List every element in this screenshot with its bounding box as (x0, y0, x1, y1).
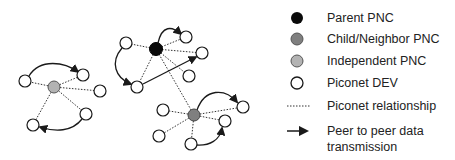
legend: Parent PNC Child/Neighbor PNC Independen… (287, 11, 440, 154)
legend-label-p2p-line2: transmission (327, 140, 397, 154)
legend-label-dev: Piconet DEV (327, 76, 399, 90)
parent-pnc-node (150, 43, 163, 56)
legend-label-child: Child/Neighbor PNC (327, 32, 440, 46)
child-pnc-symbol (291, 33, 303, 45)
piconet-dev-symbol (291, 77, 303, 89)
piconet-diagram: Parent PNC Child/Neighbor PNC Independen… (0, 0, 455, 160)
legend-label-relationship: Piconet relationship (327, 99, 436, 113)
p2p-arrow (197, 92, 237, 110)
p2p-arrow (40, 119, 82, 130)
independent-pnc-symbol (291, 55, 303, 67)
parent-pnc-symbol (291, 12, 303, 24)
p2p-arrow (29, 64, 78, 77)
independent-pnc-node (48, 81, 60, 93)
legend-label-independent: Independent PNC (327, 54, 426, 68)
legend-label-p2p-line1: Peer to peer data (327, 124, 424, 138)
p2p-arrow (196, 128, 222, 145)
p2p-arrow (115, 48, 131, 84)
child-pnc-node (188, 109, 200, 121)
p2p-arrow (158, 29, 181, 43)
legend-label-parent: Parent PNC (327, 11, 394, 25)
